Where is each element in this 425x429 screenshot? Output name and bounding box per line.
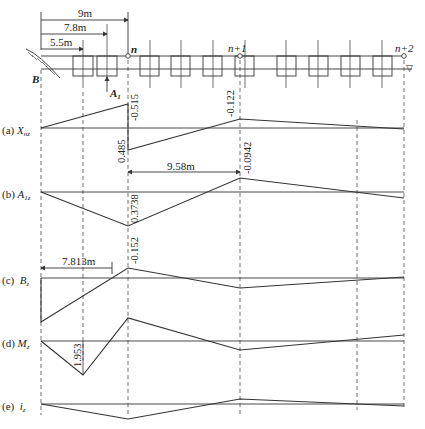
node-n-label: n [131, 44, 137, 55]
beam-segments [73, 56, 392, 76]
node-n1 [238, 54, 243, 59]
value-d-min: 1.953 [73, 343, 84, 367]
dim-9m-label: 9m [78, 8, 92, 19]
node-n [126, 54, 131, 59]
dim-7813m-label: 7.813m [62, 256, 95, 267]
dim-55m-label: 5.5m [50, 37, 72, 48]
row-d-label: (d) Mz [2, 338, 29, 351]
support-b-label: B [32, 74, 39, 85]
value-c-peak: -0.152 [130, 237, 141, 264]
value-a-neg: -0.515 [130, 94, 141, 121]
node-n2-label: n+2 [395, 43, 413, 54]
diagram-canvas [0, 0, 425, 429]
water-level-icon: ▽ [406, 64, 413, 73]
dim-78m-label: 7.8m [64, 22, 86, 33]
value-a-right: -0.122 [226, 90, 237, 117]
row-c-label: (c) Bz [2, 275, 29, 288]
row-b-label: (b) A1z [2, 189, 31, 202]
a1-label: A1 [110, 88, 121, 101]
row-a-label: (a) Xnz [2, 125, 30, 138]
value-b-min: 0.3738 [130, 194, 141, 223]
value-b-max: -0.0942 [243, 142, 254, 174]
dim-958m-label: 9.58m [167, 161, 195, 172]
node-n2 [402, 54, 407, 59]
value-a-pos: 0.485 [117, 139, 128, 163]
node-n1-label: n+1 [228, 43, 246, 54]
row-e-label: (e) iz [2, 401, 26, 414]
